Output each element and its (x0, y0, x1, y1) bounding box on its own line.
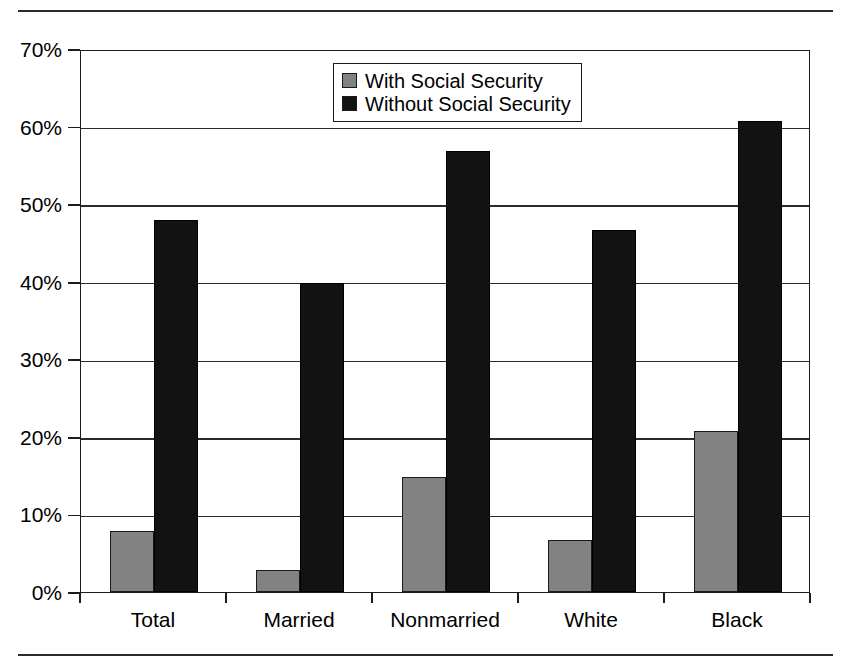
x-tick-label-white: White (518, 608, 664, 632)
y-tick-label-50: 50% (2, 194, 62, 215)
gridline-60 (81, 128, 809, 129)
bar-total-with (110, 531, 154, 592)
y-tick-label-30: 30% (2, 349, 62, 370)
y-tick-mark-50 (68, 204, 80, 206)
x-tick-label-nonmarried: Nonmarried (372, 608, 518, 632)
bar-nonmarried-without (446, 151, 490, 592)
x-tick-label-total: Total (80, 608, 226, 632)
legend-item-without-social-security: Without Social Security (342, 92, 571, 115)
bar-total-without (154, 220, 198, 592)
y-tick-mark-40 (68, 282, 80, 284)
bar-nonmarried-with (402, 477, 446, 592)
y-tick-mark-20 (68, 437, 80, 439)
y-tick-mark-30 (68, 359, 80, 361)
y-tick-mark-60 (68, 127, 80, 129)
bar-married-with (256, 570, 300, 592)
x-tick-mark-1 (371, 593, 373, 603)
y-tick-mark-70 (68, 49, 80, 51)
y-tick-label-60: 60% (2, 117, 62, 138)
y-tick-mark-10 (68, 515, 80, 517)
legend-label-without: Without Social Security (365, 94, 571, 114)
bar-black-with (694, 431, 738, 592)
top-rule (18, 10, 833, 12)
legend-item-with-social-security: With Social Security (342, 69, 571, 92)
bottom-rule (18, 654, 833, 656)
x-tick-mark-3 (663, 593, 665, 603)
y-tick-mark-0 (68, 592, 80, 594)
legend-label-with: With Social Security (365, 71, 543, 91)
plot-area (80, 50, 810, 593)
x-tick-mark-0 (225, 593, 227, 603)
bar-married-without (300, 283, 344, 593)
y-tick-label-20: 20% (2, 427, 62, 448)
y-tick-label-40: 40% (2, 272, 62, 293)
y-tick-label-10: 10% (2, 504, 62, 525)
chart-legend: With Social Security Without Social Secu… (333, 63, 582, 122)
y-tick-label-70: 70% (2, 39, 62, 60)
gridline-50 (81, 205, 809, 206)
x-tick-mark-origin (79, 593, 81, 603)
x-tick-mark-4 (809, 593, 811, 603)
bar-white-with (548, 540, 592, 592)
bar-black-without (738, 121, 782, 592)
gray-swatch-icon (342, 73, 357, 88)
bar-white-without (592, 230, 636, 592)
x-tick-label-black: Black (664, 608, 810, 632)
x-tick-label-married: Married (226, 608, 372, 632)
y-tick-label-0: 0% (2, 582, 62, 603)
x-tick-mark-2 (517, 593, 519, 603)
chart-figure: 0%10%20%30%40%50%60%70% TotalMarriedNonm… (0, 0, 851, 671)
black-swatch-icon (342, 96, 357, 111)
